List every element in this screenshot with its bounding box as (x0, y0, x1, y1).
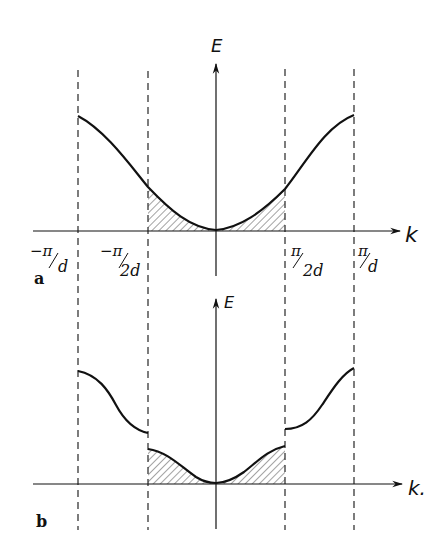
tick-pi-over-2d: π 2d (290, 242, 323, 280)
k-axis-label-a: k (405, 222, 419, 247)
e-axis-label-b: E (224, 293, 235, 312)
e-axis-label-a: E (211, 35, 223, 56)
svg-text:d: d (368, 257, 378, 276)
k-axis-label-b: k. (408, 476, 426, 500)
upper-band-left-b (78, 371, 148, 433)
band-structure-diagram: E k −π d −π 2d π 2d π d a (0, 0, 448, 560)
panel-label-a: a (34, 269, 44, 288)
svg-text:−π: −π (30, 242, 54, 260)
svg-text:2d: 2d (302, 261, 323, 280)
svg-text:d: d (58, 257, 68, 276)
svg-text:2d: 2d (119, 261, 140, 280)
tick-pi-over-d: π d (357, 242, 378, 276)
panel-b: E k. b (33, 293, 426, 531)
upper-band-right-b (285, 368, 354, 429)
tick-minus-pi-over-2d: −π 2d (100, 242, 140, 280)
panel-label-b: b (36, 512, 47, 531)
svg-text:−π: −π (100, 242, 124, 260)
panel-a: E k −π d −π 2d π 2d π d a (30, 35, 419, 288)
